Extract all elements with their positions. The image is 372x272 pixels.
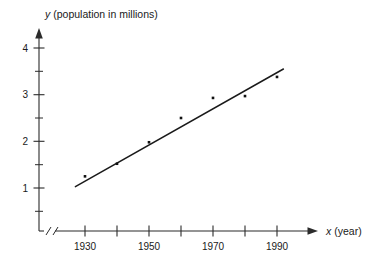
x-axis-variable: x — [325, 225, 332, 237]
y-axis-title: y(population in millions) — [44, 8, 158, 20]
chart-canvas: 4 3 2 1 1930 — [0, 0, 372, 272]
data-point — [180, 117, 183, 120]
y-axis-unit: (population in millions) — [53, 8, 157, 20]
data-point — [148, 141, 151, 144]
x-axis-arrow-icon — [308, 227, 319, 235]
data-point — [276, 76, 279, 79]
x-tick-label-1990: 1990 — [266, 241, 289, 252]
x-axis-group: 1930 1950 1970 1990 — [39, 226, 318, 253]
y-tick-label-1: 1 — [22, 183, 28, 194]
y-tick-label-2: 2 — [22, 136, 28, 147]
data-point — [244, 95, 247, 98]
x-axis-unit: (year) — [334, 225, 361, 237]
x-tick-label-1930: 1930 — [74, 241, 97, 252]
y-tick-label-3: 3 — [22, 89, 28, 100]
y-axis-variable: y — [44, 8, 51, 20]
scatter-plot-figure: 4 3 2 1 1930 — [0, 0, 372, 272]
y-axis-group: 4 3 2 1 — [22, 28, 44, 231]
x-tick-label-1950: 1950 — [138, 241, 161, 252]
data-point — [84, 175, 87, 178]
x-axis-title: x(year) — [325, 225, 362, 237]
x-tick-label-1970: 1970 — [202, 241, 225, 252]
data-point — [212, 97, 215, 100]
trend-line — [75, 69, 283, 187]
y-tick-label-4: 4 — [22, 43, 28, 54]
y-axis-arrow-icon — [35, 28, 43, 39]
data-point — [116, 162, 119, 165]
